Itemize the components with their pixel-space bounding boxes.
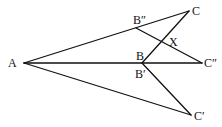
label-c: C: [192, 4, 200, 18]
segment-a-c: [24, 11, 189, 63]
label-b-double-prime: B″: [133, 13, 146, 27]
label-b: B: [136, 49, 144, 63]
label-c-prime: C′: [194, 109, 205, 123]
label-c-double-prime: C″: [204, 56, 217, 70]
label-x: X: [169, 35, 178, 49]
label-a: A: [8, 56, 17, 70]
triangle-diagram: A B B′ B″ C C′ C″ X: [0, 0, 222, 127]
label-b-prime: B′: [135, 67, 146, 81]
